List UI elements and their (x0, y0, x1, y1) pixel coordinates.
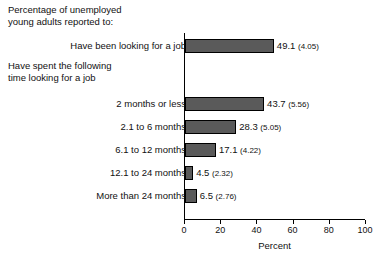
bar-value-label: 4.5 (2.32) (196, 166, 233, 181)
chart-figure: Percentage of unemployed young adults re… (0, 0, 385, 262)
x-axis-tick-label: 100 (357, 225, 372, 235)
x-axis-tick-label: 20 (215, 225, 225, 235)
bar-category-label: 2.1 to 6 months (8, 120, 186, 134)
bar (185, 189, 197, 203)
bar-standard-error: (4.05) (298, 42, 319, 51)
bar-row: Have been looking for a job49.1 (4.05) (0, 39, 385, 53)
bar-value-label: 28.3 (5.05) (239, 120, 281, 135)
bar-row: 6.1 to 12 months17.1 (4.22) (0, 143, 385, 157)
x-axis-tick (184, 220, 185, 224)
bar-value: 43.7 (267, 98, 288, 109)
bar-value-label: 17.1 (4.22) (219, 143, 261, 158)
x-axis-line (184, 219, 365, 220)
x-axis-tick-label: 60 (288, 225, 298, 235)
bar-value-label: 43.7 (5.56) (267, 97, 309, 112)
plot-area: 020406080100 Have been looking for a job… (0, 0, 385, 262)
bar-value: 28.3 (239, 121, 260, 132)
bar-value-label: 6.5 (2.76) (200, 189, 237, 204)
bar (185, 97, 264, 111)
bar-category-label: 12.1 to 24 months (8, 166, 186, 180)
bar-row: 2.1 to 6 months28.3 (5.05) (0, 120, 385, 134)
x-axis-tick (220, 220, 221, 224)
bar-category-label: 2 months or less (8, 97, 186, 111)
bar-value: 6.5 (200, 190, 216, 201)
x-axis-tick (329, 220, 330, 224)
bar-row: 2 months or less43.7 (5.56) (0, 97, 385, 111)
bar (185, 39, 274, 53)
bar-category-label: 6.1 to 12 months (8, 143, 186, 157)
x-axis-tick-label: 40 (251, 225, 261, 235)
bar-standard-error: (4.22) (240, 146, 261, 155)
bar-standard-error: (5.56) (288, 100, 309, 109)
bar (185, 120, 236, 134)
bar-standard-error: (5.05) (260, 123, 281, 132)
bar-standard-error: (2.32) (212, 169, 233, 178)
bar (185, 166, 193, 180)
bar-category-label: Have been looking for a job (8, 39, 186, 53)
x-axis-tick (256, 220, 257, 224)
bar-row: 12.1 to 24 months4.5 (2.32) (0, 166, 385, 180)
bar-value-label: 49.1 (4.05) (277, 39, 319, 54)
bar-category-label: More than 24 months (8, 189, 186, 203)
bar-value: 49.1 (277, 40, 298, 51)
x-axis-tick-label: 0 (181, 225, 186, 235)
bar-value: 17.1 (219, 144, 240, 155)
bar-row: More than 24 months6.5 (2.76) (0, 189, 385, 203)
x-axis-title: Percent (184, 240, 365, 251)
bar-value: 4.5 (196, 167, 212, 178)
x-axis-tick (293, 220, 294, 224)
bar-standard-error: (2.76) (216, 192, 237, 201)
x-axis-tick (365, 220, 366, 224)
x-axis-tick-label: 80 (324, 225, 334, 235)
bar (185, 143, 216, 157)
